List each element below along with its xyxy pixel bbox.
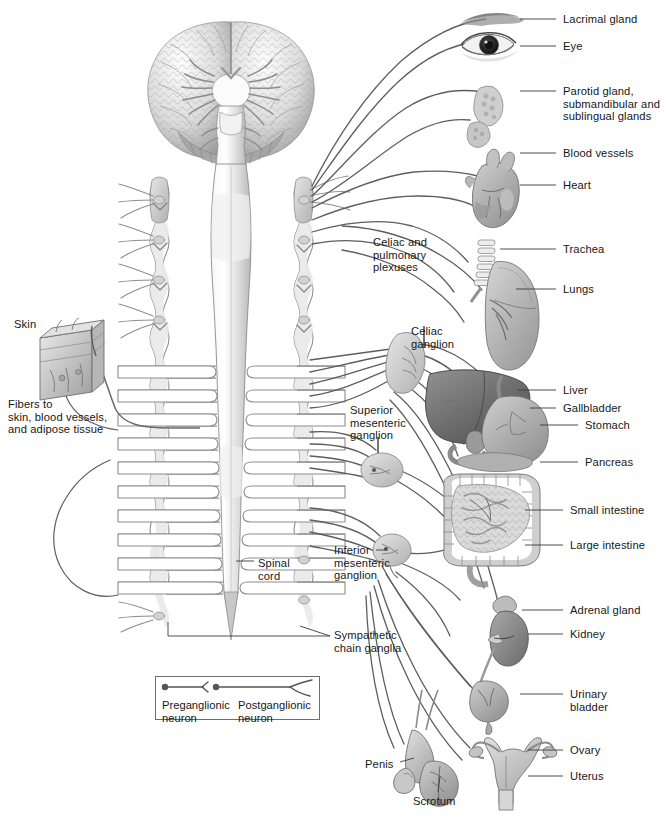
label-kidney: Kidney: [570, 628, 605, 641]
label-blood-vessels: Blood vessels: [563, 147, 633, 160]
brain-illustration: [148, 22, 315, 167]
label-ovary: Ovary: [570, 744, 600, 757]
postganglionic-terminal-lower-icon: [290, 687, 310, 696]
heart-illustration: [466, 149, 520, 227]
label-large-intestine: Large intestine: [570, 539, 645, 552]
label-inferior-mesenteric-ganglion: Inferior mesenteric ganglion: [334, 544, 390, 582]
label-lacrimal-gland: Lacrimal gland: [563, 13, 637, 26]
legend-postganglionic-caption: Postganglionic neuron: [238, 699, 311, 724]
label-pancreas: Pancreas: [585, 456, 633, 469]
label-small-intestine: Small intestine: [570, 504, 644, 517]
label-celiac-ganglion: Celiac ganglion: [411, 325, 454, 350]
salivary-glands-illustration: [467, 86, 503, 148]
label-penis: Penis: [365, 758, 394, 771]
label-spinal-cord: Spinal cord: [258, 557, 290, 582]
label-fibers-to-skin: Fibers to skin, blood vessels, and adipo…: [8, 398, 107, 436]
kidney-illustration: [478, 611, 528, 692]
label-celiac-pulmonary-plexuses: Celiac and pulmonary plexuses: [373, 236, 427, 274]
label-sympathetic-chain-ganglia: Sympathetic chain ganglia: [334, 629, 401, 654]
penis-scrotum-illustration: [394, 690, 459, 806]
uterus-illustration: [468, 738, 558, 810]
label-liver: Liver: [563, 384, 588, 397]
label-eye: Eye: [563, 40, 583, 53]
label-skin: Skin: [14, 318, 36, 331]
label-lungs: Lungs: [563, 283, 594, 296]
label-uterus: Uterus: [570, 770, 604, 783]
skin-block-illustration: [40, 318, 104, 400]
figure-canvas: Lacrimal glandEyeParotid gland, submandi…: [0, 0, 668, 817]
label-trachea: Trachea: [563, 243, 604, 256]
label-adrenal-gland: Adrenal gland: [570, 604, 641, 617]
postganglionic-soma-icon: [213, 684, 219, 690]
label-heart: Heart: [563, 179, 591, 192]
legend-preganglionic-caption: Preganglionic neuron: [162, 699, 230, 724]
label-urinary-bladder: Urinary bladder: [570, 688, 608, 713]
lungs-illustration: [485, 261, 539, 370]
preganglionic-arrowhead-icon: [202, 682, 208, 692]
label-stomach: Stomach: [585, 419, 630, 432]
label-gallbladder: Gallbladder: [563, 402, 621, 415]
eye-illustration: [460, 13, 524, 61]
label-scrotum: Scrotum: [413, 795, 455, 808]
postganglionic-terminal-upper-icon: [290, 680, 312, 687]
superior-mesenteric-ganglion-illustration: [361, 437, 403, 487]
label-superior-mesenteric-ganglion: Superior mesenteric ganglion: [350, 404, 406, 442]
preganglionic-soma-icon: [162, 684, 168, 690]
label-parotid-gland: Parotid gland, submandibular and subling…: [563, 85, 660, 123]
urinary-bladder-illustration: [470, 681, 509, 735]
